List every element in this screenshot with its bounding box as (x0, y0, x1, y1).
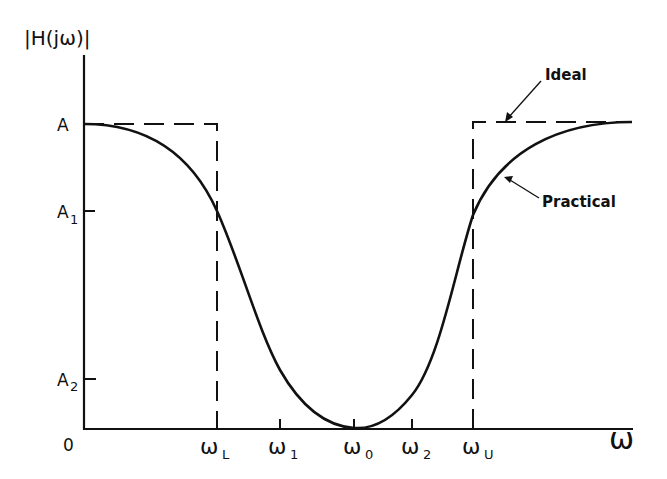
origin-label: 0 (63, 435, 74, 455)
x-tick-label-wU-sub: U (484, 447, 494, 462)
ideal-arrow (508, 81, 541, 118)
y-tick-label-A: A (57, 115, 69, 135)
filter-response-diagram: |H(jω)| A A 1 A 2 0 ω L ω 1 ω 0 ω 2 ω U … (0, 0, 667, 479)
x-tick-label-w0: ω (343, 434, 361, 459)
practical-arrow (510, 180, 539, 198)
ideal-response-right (473, 122, 632, 429)
ideal-response-left (84, 124, 217, 429)
x-tick-label-w1: ω (268, 434, 286, 459)
x-tick-label-w1-sub: 1 (290, 447, 298, 462)
practical-response-curve (84, 122, 632, 428)
y-tick-label-A2: A (57, 370, 69, 390)
annotation-practical: Practical (542, 193, 616, 211)
x-axis-label: ω (609, 421, 634, 456)
x-tick-label-wL-sub: L (222, 447, 230, 462)
x-tick-label-w0-sub: 0 (365, 447, 373, 462)
x-tick-label-wU: ω (462, 434, 480, 459)
y-tick-label-A1-sub: 1 (70, 212, 78, 227)
annotation-ideal: Ideal (545, 66, 587, 84)
y-tick-label-A2-sub: 2 (70, 379, 78, 394)
x-tick-label-wL: ω (200, 434, 218, 459)
x-tick-label-w2: ω (401, 434, 419, 459)
y-axis-label: |H(jω)| (24, 26, 90, 50)
x-tick-label-w2-sub: 2 (423, 447, 431, 462)
y-tick-label-A1: A (57, 202, 69, 222)
practical-arrowhead-icon (504, 176, 513, 183)
